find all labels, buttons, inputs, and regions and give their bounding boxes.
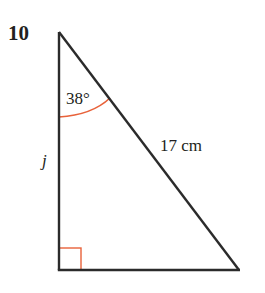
side-j-label: j xyxy=(40,151,47,170)
right-triangle-diagram: 10 38° 17 cm j xyxy=(0,0,265,293)
hypotenuse-label: 17 cm xyxy=(160,136,202,155)
right-angle-marker xyxy=(59,248,81,270)
question-number: 10 xyxy=(8,21,29,45)
side-hypotenuse xyxy=(59,32,239,270)
angle-label: 38° xyxy=(66,89,90,108)
